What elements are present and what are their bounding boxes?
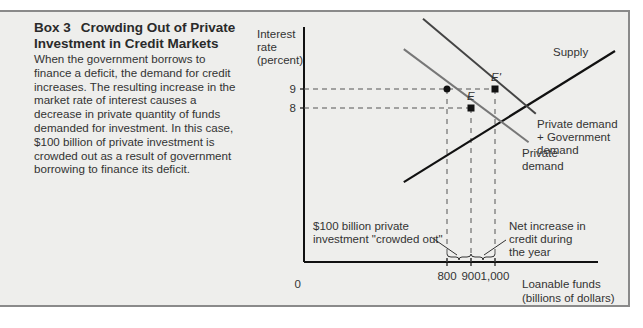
annotation-crowded-out: investment "crowded out"	[313, 233, 443, 245]
annotation-net-increase: Net increase in	[509, 220, 586, 232]
point-label: E'	[491, 71, 502, 83]
annotation-net-increase: credit during	[509, 233, 572, 245]
y-tick-label: 8	[290, 102, 296, 114]
point-label: E	[467, 90, 475, 102]
x-axis-label: (billions of dollars)	[522, 292, 615, 304]
series-label-private-gov-demand: + Government	[537, 131, 611, 143]
x-tick-label: 800	[437, 270, 456, 282]
equilibrium-point	[492, 86, 499, 93]
series-label-private-demand: demand	[522, 160, 564, 172]
y-axis-label: Interest	[257, 28, 296, 40]
y-axis-label: rate	[257, 41, 277, 53]
series-label-supply: Supply	[553, 46, 588, 58]
x-axis-label: Loanable funds	[522, 278, 601, 290]
equilibrium-point	[468, 105, 475, 112]
y-tick-label: 9	[290, 83, 296, 95]
brace-crowded-out	[447, 254, 471, 260]
x-tick-label: 1,000	[481, 270, 510, 282]
origin-label: 0	[295, 278, 301, 290]
series-line	[404, 51, 615, 182]
series-label-private-gov-demand: demand	[537, 144, 579, 156]
series-label-private-gov-demand: Private demand	[537, 118, 618, 130]
equilibrium-point	[444, 86, 451, 93]
series-line	[423, 19, 536, 114]
annotation-crowded-out: $100 billion private	[313, 220, 409, 232]
x-tick-label: 900	[461, 270, 480, 282]
chart: Interestrate(percent)Loanable funds(bill…	[0, 0, 643, 328]
brace-net-increase	[471, 254, 495, 260]
y-axis-label: (percent)	[257, 54, 303, 66]
annotation-net-increase: the year	[509, 246, 551, 258]
